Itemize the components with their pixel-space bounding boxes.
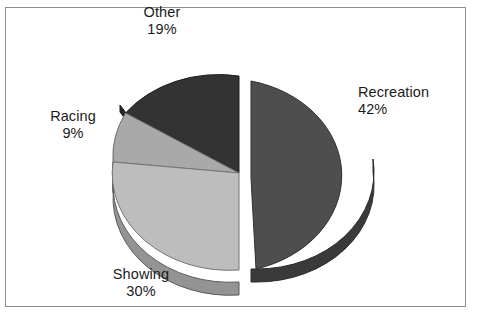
pie-label-recreation-percent: 42% xyxy=(358,101,429,118)
pie-slice-top-showing xyxy=(112,162,239,270)
pie-chart-canvas xyxy=(0,0,480,317)
pie-label-showing-percent: 30% xyxy=(86,283,196,300)
pie-slice-top-recreation xyxy=(251,81,342,269)
pie-label-racing-percent: 9% xyxy=(24,125,122,142)
pie-chart-figure: Recreation 42% Showing 30% Other 19% Rac… xyxy=(0,0,480,317)
pie-label-other: Other 19% xyxy=(112,4,212,38)
pie-label-racing-name: Racing xyxy=(24,108,122,125)
pie-label-recreation: Recreation 42% xyxy=(358,84,429,118)
pie-label-other-name: Other xyxy=(112,4,212,21)
pie-label-racing: Racing 9% xyxy=(24,108,122,142)
pie-label-showing-name: Showing xyxy=(86,266,196,283)
pie-label-recreation-name: Recreation xyxy=(358,84,429,101)
pie-label-showing: Showing 30% xyxy=(86,266,196,300)
pie-label-other-percent: 19% xyxy=(112,21,212,38)
